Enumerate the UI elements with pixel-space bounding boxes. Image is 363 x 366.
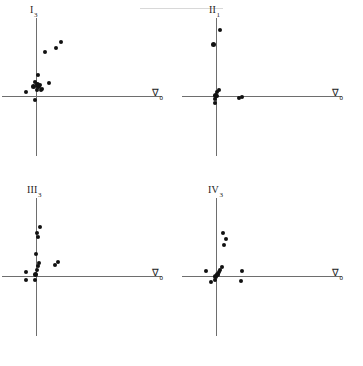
data-point <box>59 40 63 44</box>
nabla-icon: ∇ <box>332 268 339 278</box>
panel-label-2: II1 <box>209 5 220 18</box>
data-point <box>43 50 47 54</box>
panel-label-4-roman: IV <box>208 184 219 195</box>
data-point <box>240 95 244 99</box>
data-point <box>24 90 28 94</box>
figure-canvas: I3 ∇0 II1 ∇0 <box>0 0 363 366</box>
data-point <box>222 243 226 247</box>
data-point <box>224 237 228 241</box>
data-point <box>33 278 37 282</box>
data-point <box>35 268 39 272</box>
panel-lower-left: III3 ∇0 <box>2 184 183 366</box>
panel-lower-right: IV3 ∇0 <box>182 184 363 366</box>
data-point <box>240 269 244 273</box>
x-axis <box>2 276 162 277</box>
data-point <box>36 235 40 239</box>
data-point <box>36 73 40 77</box>
data-point <box>204 269 208 273</box>
x-axis-subscript-3: 0 <box>160 274 164 282</box>
data-point <box>217 88 221 92</box>
y-axis <box>216 18 217 156</box>
panel-label-3-subscript: 3 <box>38 191 42 199</box>
data-point <box>215 94 219 98</box>
data-point <box>221 231 225 235</box>
x-axis-label-2: ∇0 <box>332 88 343 101</box>
nabla-icon: ∇ <box>332 88 339 98</box>
data-point <box>24 270 28 274</box>
data-point <box>33 98 37 102</box>
data-point <box>35 231 39 235</box>
data-point <box>33 80 37 84</box>
panel-label-1-subscript: 3 <box>34 11 38 19</box>
data-point <box>33 272 38 277</box>
panel-label-4: IV3 <box>208 185 222 198</box>
data-point <box>24 278 28 282</box>
data-point <box>38 225 42 229</box>
x-axis-subscript-2: 0 <box>340 94 344 102</box>
panel-label-2-subscript: 1 <box>217 11 221 19</box>
data-point <box>220 265 224 269</box>
nabla-icon: ∇ <box>152 268 159 278</box>
panel-upper-right: II1 ∇0 <box>182 4 363 187</box>
panel-label-1: I3 <box>30 5 37 18</box>
x-axis-label-1: ∇0 <box>152 88 163 101</box>
panel-label-4-subscript: 3 <box>219 191 223 199</box>
y-axis <box>216 198 217 336</box>
data-point <box>239 279 243 283</box>
x-axis-subscript-1: 0 <box>160 94 164 102</box>
x-axis <box>2 96 162 97</box>
x-axis <box>182 276 342 277</box>
panel-label-3-roman: III <box>27 184 38 195</box>
x-axis-label-3: ∇0 <box>152 268 163 281</box>
panel-label-3: III3 <box>27 185 41 198</box>
data-point <box>47 81 51 85</box>
data-point <box>211 42 216 47</box>
data-point <box>37 261 41 265</box>
data-point <box>218 28 222 32</box>
x-axis-subscript-4: 0 <box>340 274 344 282</box>
data-point <box>39 88 43 92</box>
data-point <box>213 101 217 105</box>
panel-upper-left: I3 ∇0 <box>2 4 183 187</box>
data-point <box>34 252 38 256</box>
x-axis-label-4: ∇0 <box>332 268 343 281</box>
x-axis <box>182 96 342 97</box>
data-point <box>56 260 60 264</box>
panel-label-2-roman: II <box>209 4 216 15</box>
nabla-icon: ∇ <box>152 88 159 98</box>
panel-label-1-roman: I <box>30 4 34 15</box>
data-point <box>54 46 58 50</box>
